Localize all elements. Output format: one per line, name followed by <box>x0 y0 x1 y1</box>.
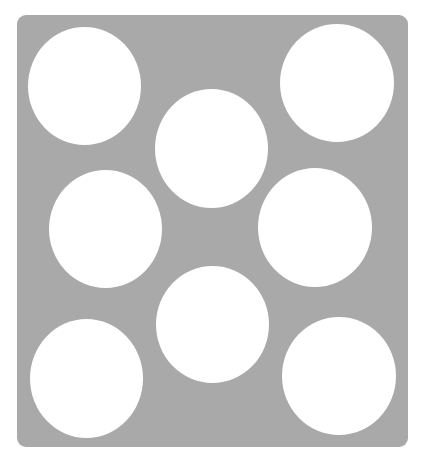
circle-hole-top-left <box>28 27 141 145</box>
circle-hole-middle-left <box>49 170 162 288</box>
circle-hole-bottom-right <box>282 317 396 435</box>
circle-hole-top-right <box>280 24 394 142</box>
gray-board-with-circular-holes <box>17 15 408 447</box>
circle-hole-middle-right <box>258 168 372 287</box>
circle-hole-bottom-left <box>30 319 143 438</box>
circle-hole-top-center <box>155 89 268 208</box>
circle-hole-bottom-center <box>156 266 269 383</box>
